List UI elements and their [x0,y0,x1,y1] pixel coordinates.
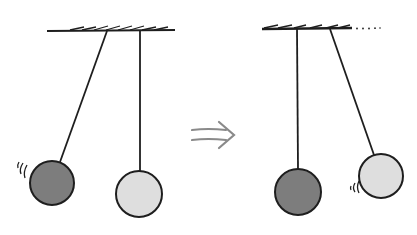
ceiling-hatched-right [262,25,381,29]
pendulum-light-after [330,29,403,198]
pendulum-dark-after [275,29,321,215]
string [330,29,374,155]
panel-before [18,26,175,217]
pendulum-diagram: Pendulum collision: momentum transfer [0,0,417,235]
diagram-canvas [0,0,417,235]
light-bob [359,154,403,198]
pendulum-light-before [116,31,162,217]
motion-lines-icon [18,162,27,178]
string [297,29,298,169]
light-bob [116,171,162,217]
pendulum-dark-before [18,31,107,205]
string [60,31,107,162]
dark-bob [30,161,74,205]
transition-arrow-icon [192,122,234,148]
motion-lines-icon [351,181,360,193]
panel-after [262,25,403,215]
ceiling-hatched-left [47,26,175,31]
dark-bob [275,169,321,215]
ceiling-dotted-extension [356,27,381,29]
